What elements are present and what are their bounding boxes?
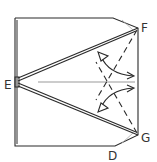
label-G: G bbox=[141, 131, 150, 145]
label-E: E bbox=[4, 78, 12, 92]
left-flap bbox=[15, 20, 19, 144]
label-F: F bbox=[141, 21, 148, 35]
origami-diagram: E F G D bbox=[0, 0, 157, 162]
label-D: D bbox=[108, 149, 117, 162]
